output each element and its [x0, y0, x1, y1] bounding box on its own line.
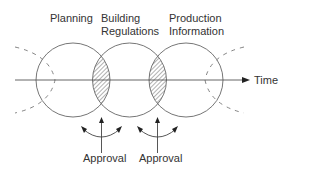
building-label-line1: Building — [101, 12, 140, 25]
time-arrowhead — [242, 77, 250, 83]
approval-label-1: Approval — [83, 152, 126, 165]
time-label: Time — [254, 74, 278, 87]
planning-label: Planning — [50, 12, 93, 25]
approval-arrows-2 — [137, 117, 178, 153]
production-label-line1: Production — [169, 12, 222, 25]
approval-label-2: Approval — [139, 152, 182, 165]
building-label-line2: Regulations — [101, 25, 159, 38]
approval-arrows-1 — [81, 117, 122, 153]
production-label-line2: Information — [169, 25, 224, 38]
